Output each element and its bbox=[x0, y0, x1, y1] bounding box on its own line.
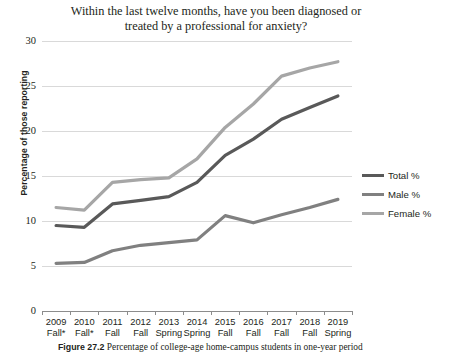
chart-title-line-2: treated by a professional for anxiety? bbox=[38, 19, 394, 34]
x-tick-label: 2017Fall bbox=[266, 317, 298, 339]
figure-caption-text: Percentage of college-age home-campus st… bbox=[107, 342, 363, 352]
x-tick-label: 2015Fall bbox=[209, 317, 241, 339]
legend-item: Total % bbox=[362, 166, 452, 185]
x-axis-tick bbox=[183, 311, 184, 315]
x-axis-tick bbox=[98, 311, 99, 315]
x-tick-label: 2019Spring bbox=[322, 317, 354, 339]
legend-label: Total % bbox=[388, 170, 419, 181]
x-axis-tick bbox=[70, 311, 71, 315]
x-tick-label: 2018Fall bbox=[294, 317, 326, 339]
chart-figure: Within the last twelve months, have you … bbox=[0, 0, 452, 352]
legend-label: Male % bbox=[388, 189, 420, 200]
legend-swatch bbox=[362, 212, 384, 215]
y-tick-label: 15 bbox=[10, 170, 36, 181]
y-axis-tick-labels: 051015202530 bbox=[6, 41, 36, 311]
x-tick-label: 2010Fall* bbox=[68, 317, 100, 339]
chart-title: Within the last twelve months, have you … bbox=[38, 4, 394, 34]
series-line bbox=[56, 96, 338, 227]
x-axis-tick bbox=[352, 311, 353, 315]
x-axis-tick bbox=[267, 311, 268, 315]
y-tick-label: 25 bbox=[10, 80, 36, 91]
y-tick-label: 10 bbox=[10, 215, 36, 226]
x-axis-tick bbox=[296, 311, 297, 315]
chart-legend: Total %Male %Female % bbox=[362, 166, 452, 223]
chart-title-line-1: Within the last twelve months, have you … bbox=[38, 4, 394, 19]
x-axis-tick bbox=[211, 311, 212, 315]
x-axis-line bbox=[42, 311, 352, 312]
series-line bbox=[56, 199, 338, 263]
figure-number: Figure 27.2 bbox=[58, 342, 104, 352]
y-tick-label: 0 bbox=[10, 305, 36, 316]
y-tick-label: 20 bbox=[10, 125, 36, 136]
y-tick-label: 5 bbox=[10, 260, 36, 271]
x-axis-tick bbox=[42, 311, 43, 315]
legend-swatch bbox=[362, 193, 384, 196]
x-tick-label: 2012Fall bbox=[125, 317, 157, 339]
series-line bbox=[56, 62, 338, 211]
x-axis-tick bbox=[239, 311, 240, 315]
x-axis-tick bbox=[324, 311, 325, 315]
x-axis-tick bbox=[127, 311, 128, 315]
legend-item: Female % bbox=[362, 204, 452, 223]
y-tick-label: 30 bbox=[10, 35, 36, 46]
legend-item: Male % bbox=[362, 185, 452, 204]
legend-swatch bbox=[362, 174, 384, 177]
series-lines bbox=[42, 41, 352, 311]
x-axis-tick bbox=[155, 311, 156, 315]
legend-label: Female % bbox=[388, 208, 431, 219]
x-tick-label: 2013Spring bbox=[153, 317, 185, 339]
figure-caption: Figure 27.2 Percentage of college-age ho… bbox=[58, 341, 408, 352]
